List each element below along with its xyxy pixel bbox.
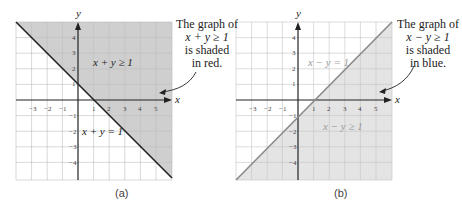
line-label-b: x − y = 1 [307,56,349,68]
svg-text:1: 1 [72,80,76,88]
svg-text:2: 2 [327,105,331,113]
svg-text:−3: −3 [289,143,297,151]
svg-text:−1: −1 [59,105,67,113]
svg-text:1: 1 [312,105,316,113]
annotation-a-line4: in red. [176,57,238,70]
line-label-a: x + y = 1 [81,125,123,137]
svg-text:−3: −3 [249,105,257,113]
y-axis-label-b: y [295,7,301,19]
svg-text:3: 3 [123,105,127,113]
svg-text:3: 3 [292,49,296,57]
caption-a: (a) [115,187,128,199]
panel-b-graph: −3−2−1 12345 4321 −1−2−3−4 x y x − y = 1… [236,7,414,199]
svg-text:2: 2 [292,65,296,73]
region-label-a: x + y ≥ 1 [92,56,133,68]
svg-text:4: 4 [292,34,296,42]
svg-text:−1: −1 [289,112,297,120]
svg-text:−4: −4 [69,159,77,167]
svg-text:−3: −3 [29,105,37,113]
svg-text:−2: −2 [289,128,297,136]
svg-text:−2: −2 [44,105,52,113]
svg-text:2: 2 [72,65,76,73]
x-axis-label-b: x [394,93,400,105]
panel-a-graph: −3−2−1 12345 4321 −1−2−3−4 x y x + y ≥ 1… [16,7,196,199]
svg-text:4: 4 [138,105,142,113]
svg-text:−4: −4 [289,159,297,167]
annotation-b: The graph of x − y ≥ 1 is shaded in blue… [396,18,460,70]
svg-text:1: 1 [292,80,296,88]
annotation-a: The graph of x + y ≥ 1 is shaded in red. [176,18,238,70]
svg-text:−3: −3 [69,143,77,151]
caption-b: (b) [334,187,347,199]
svg-text:−1: −1 [279,105,287,113]
region-label-b: x − y ≥ 1 [322,120,363,132]
svg-text:5: 5 [154,105,158,113]
svg-text:−2: −2 [264,105,272,113]
svg-text:−2: −2 [69,128,77,136]
svg-text:4: 4 [358,105,362,113]
svg-text:2: 2 [107,105,111,113]
svg-text:3: 3 [72,49,76,57]
svg-text:3: 3 [343,105,347,113]
svg-text:1: 1 [92,105,96,113]
annotation-b-line4: in blue. [396,57,460,70]
svg-text:−1: −1 [69,112,77,120]
y-axis-label-a: y [75,7,81,19]
svg-text:5: 5 [374,105,378,113]
svg-text:4: 4 [72,34,76,42]
x-axis-label-a: x [174,93,180,105]
